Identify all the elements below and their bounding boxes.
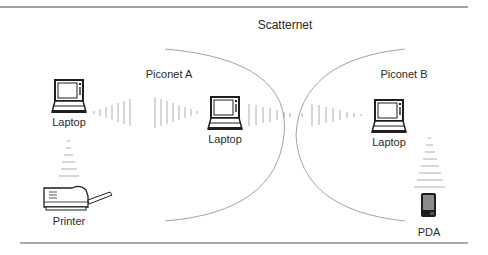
radio-waves-laptop-to-pda: [414, 138, 445, 187]
radio-waves-laptop-to-printer: [59, 141, 79, 176]
pda-label: PDA: [418, 226, 441, 238]
piconet-a-label: Piconet A: [146, 68, 192, 80]
printer-label: Printer: [53, 215, 85, 227]
laptop-right-label: Laptop: [372, 136, 406, 148]
printer-icon: [44, 186, 112, 210]
laptop-left-icon: [52, 80, 86, 113]
laptop-center-icon: [208, 97, 242, 130]
pda-icon: [421, 193, 436, 217]
scatternet-label: Scatternet: [258, 18, 313, 32]
piconet-b-label: Piconet B: [380, 68, 427, 80]
laptop-right-icon: [372, 100, 406, 133]
radio-waves-center-to-right: [249, 104, 361, 126]
laptop-left-label: Laptop: [52, 116, 86, 128]
radio-waves-left-to-center: [94, 97, 197, 128]
laptop-center-label: Laptop: [208, 133, 242, 145]
